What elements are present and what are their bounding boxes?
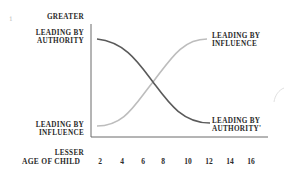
x-tick-6: 6 [141,157,145,166]
x-tick-12: 12 [205,157,213,166]
influence-curve [97,39,207,126]
x-tick-14: 14 [226,157,234,166]
x-tick-16: 16 [247,157,255,166]
margin-arc-mark [274,88,284,102]
x-tick-4: 4 [120,157,124,166]
x-tick-2: 2 [98,157,102,166]
diagram-canvas [0,0,286,172]
x-axis-label: AGE OF CHILD [22,158,80,166]
x-tick-10: 10 [184,157,192,166]
x-tick-8: 8 [161,157,165,166]
